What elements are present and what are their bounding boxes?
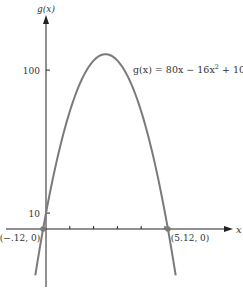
root-point-marker [40, 226, 46, 232]
function-label-lhs: g(x) = 80x − 16x [133, 64, 215, 75]
root-point-label: (5.12, 0) [171, 233, 210, 243]
x-axis-arrow-icon [224, 226, 233, 232]
y-axis-label: g(x) [37, 4, 55, 14]
y-tick-label: 100 [23, 66, 40, 76]
function-graph: x g(x) 10100 (−.12, 0)(5.12, 0) g(x) = 8… [0, 0, 243, 291]
y-tick-label: 10 [29, 209, 41, 219]
root-point-marker [165, 226, 171, 232]
x-axis-label: x [236, 224, 242, 235]
function-label: g(x) = 80x − 16x2 + 10 [133, 63, 243, 75]
root-point-label: (−.12, 0) [0, 233, 40, 243]
parabola-curve [35, 54, 175, 275]
y-axis-arrow-icon [43, 15, 49, 24]
function-label-rhs: + 10 [219, 64, 243, 75]
